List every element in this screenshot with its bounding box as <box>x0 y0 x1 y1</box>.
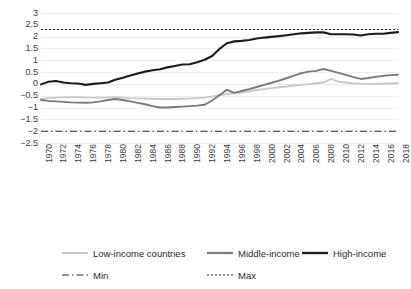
legend-label: Low-income countries <box>93 248 185 259</box>
y-axis-tick-label: −2 <box>4 127 38 136</box>
x-axis-tick-label: 1980 <box>119 144 128 163</box>
x-axis-tick-label: 2006 <box>312 144 321 163</box>
plot-area <box>41 13 398 143</box>
y-axis-tick-label: 2.5 <box>4 20 38 29</box>
chart-legend: Low-income countriesMiddle-incomeHigh-in… <box>0 243 405 289</box>
x-axis-tick-label: 2018 <box>402 144 411 163</box>
solid-light-gray-line-icon <box>62 248 88 258</box>
x-axis-tick-label: 1976 <box>89 144 98 163</box>
y-axis: 32.521.510.50−0.5−1−1.5−2−2.5 <box>0 13 38 143</box>
x-axis-tick-label: 1986 <box>164 144 173 163</box>
y-axis-tick-label: 0.5 <box>4 68 38 77</box>
x-axis-tick-label: 2016 <box>387 144 396 163</box>
series-line-high-income <box>41 32 398 85</box>
x-axis-tick-label: 2000 <box>268 144 277 163</box>
x-axis-tick-label: 1978 <box>104 144 113 163</box>
y-axis-tick-label: 2 <box>4 32 38 41</box>
y-axis-tick-label: −2.5 <box>4 139 38 148</box>
legend-label: Max <box>238 270 256 281</box>
x-axis-tick-label: 1988 <box>178 144 187 163</box>
x-axis: 1970197219741976197819801982198419861988… <box>41 144 398 190</box>
x-axis-tick-label: 2008 <box>327 144 336 163</box>
legend-item-low-income-countries[interactable]: Low-income countries <box>62 243 185 263</box>
x-axis-tick-label: 2010 <box>342 144 351 163</box>
x-axis-tick-label: 2014 <box>372 144 381 163</box>
x-axis-tick-label: 1982 <box>134 144 143 163</box>
y-axis-tick-label: −1.5 <box>4 115 38 124</box>
y-axis-tick-label: 3 <box>4 9 38 18</box>
legend-row-primary: Low-income countriesMiddle-incomeHigh-in… <box>0 243 405 263</box>
x-axis-tick-label: 1990 <box>193 144 202 163</box>
solid-black-line-icon <box>302 248 328 258</box>
x-axis-tick-label: 2002 <box>283 144 292 163</box>
legend-label: High-income <box>333 248 386 259</box>
legend-row-reference: MinMax <box>0 265 405 285</box>
x-axis-tick-label: 1998 <box>253 144 262 163</box>
x-axis-tick-label: 1972 <box>59 144 68 163</box>
x-axis-tick-label: 1974 <box>74 144 83 163</box>
legend-item-middle-income[interactable]: Middle-income <box>207 243 300 263</box>
y-axis-tick-label: −1 <box>4 103 38 112</box>
x-axis-tick-label: 1996 <box>238 144 247 163</box>
x-axis-tick-label: 1992 <box>208 144 217 163</box>
x-axis-tick-label: 2004 <box>297 144 306 163</box>
legend-label: Min <box>93 270 108 281</box>
legend-label: Middle-income <box>238 248 300 259</box>
series-line-middle-income <box>41 69 398 108</box>
legend-item-min[interactable]: Min <box>62 265 108 285</box>
x-axis-tick-label: 2012 <box>357 144 366 163</box>
y-axis-tick-label: −0.5 <box>4 91 38 100</box>
solid-mid-gray-line-icon <box>207 248 233 258</box>
y-axis-tick-label: 0 <box>4 79 38 88</box>
legend-item-high-income[interactable]: High-income <box>302 243 386 263</box>
dotted-line-icon <box>207 270 233 280</box>
legend-item-max[interactable]: Max <box>207 265 256 285</box>
y-axis-tick-label: 1.5 <box>4 44 38 53</box>
y-axis-tick-label: 1 <box>4 56 38 65</box>
series-paths <box>41 13 398 143</box>
x-axis-tick-label: 1994 <box>223 144 232 163</box>
dash-dot-line-icon <box>62 270 88 280</box>
x-axis-tick-label: 1970 <box>45 144 54 163</box>
x-axis-tick-label: 1984 <box>149 144 158 163</box>
